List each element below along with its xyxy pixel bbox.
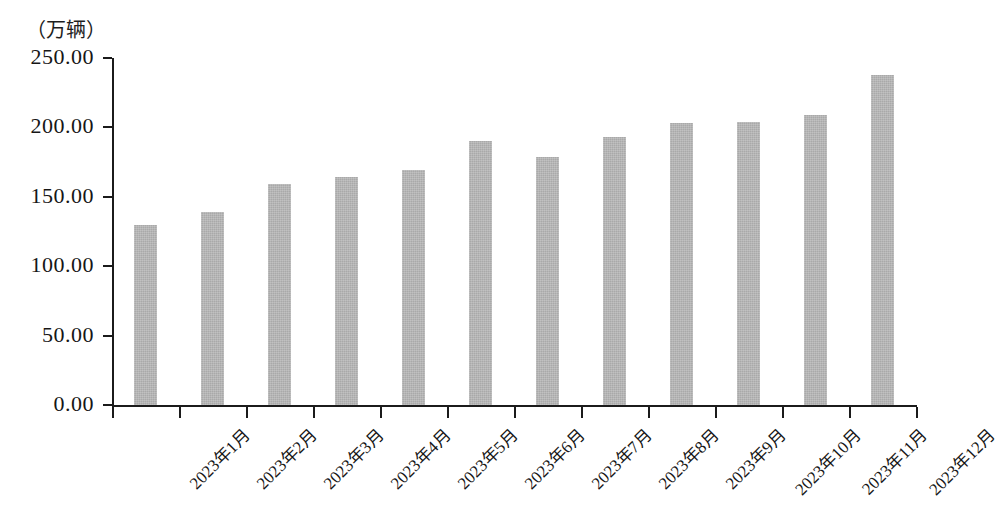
x-axis-tick <box>782 407 784 418</box>
x-axis-tick <box>313 407 315 418</box>
bar <box>603 137 626 405</box>
x-axis-label: 2023年3月 <box>316 422 388 494</box>
bar <box>402 170 425 405</box>
x-axis-label: 2023年9月 <box>718 422 790 494</box>
y-axis-tick: 0.00 <box>103 404 112 406</box>
x-axis-tick <box>916 407 918 418</box>
bar <box>871 75 894 405</box>
bar <box>268 184 291 405</box>
x-axis-label: 2023年10月 <box>787 422 865 500</box>
y-axis-tick-label: 50.00 <box>42 322 94 348</box>
x-axis-label: 2023年12月 <box>921 422 999 500</box>
bar <box>670 123 693 405</box>
x-axis-label: 2023年6月 <box>517 422 589 494</box>
bar <box>201 212 224 405</box>
y-axis-tick-label: 150.00 <box>31 183 95 209</box>
plot-area: 0.0050.00100.00150.00200.00250.00 2023年1… <box>112 58 917 405</box>
bar <box>536 157 559 405</box>
y-axis-tick: 200.00 <box>103 126 112 128</box>
x-axis-label: 2023年5月 <box>450 422 522 494</box>
x-axis-label: 2023年8月 <box>651 422 723 494</box>
bar <box>134 225 157 405</box>
x-axis-tick <box>581 407 583 418</box>
y-axis-line <box>112 58 114 405</box>
x-axis-tick <box>246 407 248 418</box>
x-axis-tick <box>380 407 382 418</box>
x-axis-label: 2023年7月 <box>584 422 656 494</box>
y-axis-tick-label: 200.00 <box>31 113 95 139</box>
x-axis-label: 2023年4月 <box>383 422 455 494</box>
x-axis-tick <box>715 407 717 418</box>
bar <box>469 141 492 405</box>
bar <box>804 115 827 405</box>
y-axis-tick-label: 0.00 <box>54 391 95 417</box>
y-axis-tick: 150.00 <box>103 196 112 198</box>
y-axis-tick-label: 250.00 <box>31 44 95 70</box>
x-axis-tick <box>648 407 650 418</box>
y-axis-tick: 100.00 <box>103 265 112 267</box>
x-axis-tick <box>447 407 449 418</box>
unit-caption: （万辆） <box>26 14 106 43</box>
x-axis-label: 2023年2月 <box>249 422 321 494</box>
x-axis-tick <box>179 407 181 418</box>
x-axis-label: 2023年1月 <box>182 422 254 494</box>
x-axis-tick <box>112 407 114 418</box>
y-axis-tick: 50.00 <box>103 335 112 337</box>
x-axis-tick <box>849 407 851 418</box>
x-axis-tick <box>514 407 516 418</box>
x-axis-label: 2023年11月 <box>854 422 931 499</box>
bar <box>335 177 358 405</box>
y-axis-tick: 250.00 <box>103 57 112 59</box>
y-axis-tick-label: 100.00 <box>31 252 95 278</box>
bar <box>737 122 760 405</box>
